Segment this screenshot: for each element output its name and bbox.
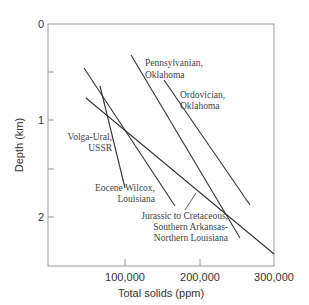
y-axis-title: Depth (km): [13, 118, 25, 172]
svg-text:Ordovician,: Ordovician,: [180, 90, 225, 100]
annotation-jurassic-cretaceous: Jurassic to Cretaceous, Southern Arkansa…: [141, 211, 229, 243]
annotation-pennsylvanian: Pennsylvanian, Oklahoma: [145, 58, 203, 80]
x-tick-label: 100,000: [105, 271, 145, 283]
x-tick-label: 200,000: [180, 271, 220, 283]
svg-text:Oklahoma: Oklahoma: [145, 70, 185, 80]
svg-text:Northern Louisiana: Northern Louisiana: [154, 233, 229, 243]
x-tick-label: 300,000: [254, 271, 294, 283]
y-tick-label: 0: [38, 18, 44, 30]
svg-text:Southern Arkansas-: Southern Arkansas-: [153, 222, 228, 232]
annotation-ordovician: Ordovician, Oklahoma: [180, 90, 225, 111]
svg-text:Eocene Wilcox,: Eocene Wilcox,: [95, 183, 155, 193]
annotation-eocene-wilcox: Eocene Wilcox, Louisiana: [95, 183, 156, 204]
annotation-volga-ural: Volga-Ural, USSR: [68, 132, 113, 153]
x-axis-title: Total solids (ppm): [118, 287, 204, 299]
svg-text:Oklahoma: Oklahoma: [180, 101, 220, 111]
svg-text:USSR: USSR: [88, 143, 112, 153]
svg-text:Jurassic to Cretaceous,: Jurassic to Cretaceous,: [141, 211, 228, 221]
y-axis: [48, 72, 54, 217]
depth-vs-total-solids-chart: 0 1 2 100,000 200,000 300,000 Total soli…: [0, 0, 309, 305]
y-tick-label: 1: [38, 114, 44, 126]
svg-text:Pennsylvanian,: Pennsylvanian,: [145, 58, 203, 68]
annotation-leader: [185, 193, 196, 210]
x-axis: [125, 259, 200, 266]
y-tick-label: 2: [38, 211, 44, 223]
svg-text:Volga-Ural,: Volga-Ural,: [68, 132, 112, 142]
svg-text:Louisiana: Louisiana: [118, 194, 156, 204]
